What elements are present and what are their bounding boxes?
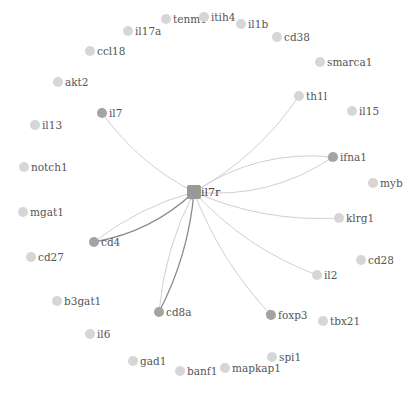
node-cd38[interactable]: cd38 <box>272 31 310 43</box>
node-label: il2 <box>324 269 337 281</box>
node-tbx21[interactable]: tbx21 <box>318 315 360 327</box>
node-il15[interactable]: il15 <box>347 105 379 117</box>
node-label: il17a <box>135 25 161 37</box>
node-notch1[interactable]: notch1 <box>19 161 68 173</box>
node-cd8a[interactable]: cd8a <box>154 306 192 318</box>
node-il6[interactable]: il6 <box>85 328 111 340</box>
node-label: gad1 <box>140 355 166 367</box>
node-label: akt2 <box>65 76 89 88</box>
edge-th1l-il7r <box>194 96 299 192</box>
node-marker[interactable] <box>199 12 209 22</box>
node-label: spi1 <box>279 351 301 363</box>
node-myb[interactable]: myb <box>368 177 403 189</box>
node-gad1[interactable]: gad1 <box>128 355 166 367</box>
edge-cd4-il7r <box>94 192 194 242</box>
node-marker[interactable] <box>175 366 185 376</box>
node-foxp3[interactable]: foxp3 <box>266 309 308 321</box>
node-label: tbx21 <box>330 315 360 327</box>
node-marker[interactable] <box>154 307 164 317</box>
hub-node-il7r[interactable]: il7r <box>187 185 221 199</box>
node-label: th1l <box>306 90 328 102</box>
node-marker[interactable] <box>312 270 322 280</box>
edge-il7r-cd8a <box>159 192 194 312</box>
node-il13[interactable]: il13 <box>30 119 62 131</box>
node-marker[interactable] <box>26 252 36 262</box>
node-marker[interactable] <box>267 352 277 362</box>
node-il7[interactable]: il7 <box>97 107 122 119</box>
network-graph[interactable]: tenm1itih4il1bcd38smarca1th1lil15ifna1my… <box>0 0 418 393</box>
node-label: il6 <box>97 328 111 340</box>
node-marker[interactable] <box>30 120 40 130</box>
node-label: myb <box>380 177 403 189</box>
node-il1b[interactable]: il1b <box>236 18 268 30</box>
node-marker[interactable] <box>318 316 328 326</box>
node-label: il7 <box>109 107 122 119</box>
node-label: il13 <box>42 119 62 131</box>
node-cd27[interactable]: cd27 <box>26 251 64 263</box>
node-b3gat1[interactable]: b3gat1 <box>52 295 101 307</box>
node-label: cd28 <box>368 254 394 266</box>
node-ifna1[interactable]: ifna1 <box>328 151 367 163</box>
node-label: cd4 <box>101 236 121 248</box>
node-marker[interactable] <box>315 57 325 67</box>
node-klrg1[interactable]: klrg1 <box>334 212 374 224</box>
node-smarca1[interactable]: smarca1 <box>315 56 372 68</box>
node-marker[interactable] <box>128 356 138 366</box>
node-banf1[interactable]: banf1 <box>175 365 217 377</box>
node-marker[interactable] <box>272 32 282 42</box>
node-label: foxp3 <box>278 309 308 321</box>
edge-il7-il7r <box>102 113 194 192</box>
node-marker[interactable] <box>18 207 28 217</box>
node-il2[interactable]: il2 <box>312 269 337 281</box>
node-label: cd8a <box>166 306 192 318</box>
node-th1l[interactable]: th1l <box>294 90 328 102</box>
node-cd28[interactable]: cd28 <box>356 254 394 266</box>
node-marker[interactable] <box>294 91 304 101</box>
node-akt2[interactable]: akt2 <box>53 76 89 88</box>
node-label: il15 <box>359 105 379 117</box>
node-il17a[interactable]: il17a <box>123 25 161 37</box>
node-marker[interactable] <box>266 310 276 320</box>
edge-cd4-il7r <box>94 192 194 242</box>
node-mgat1[interactable]: mgat1 <box>18 206 64 218</box>
hub-node-label: il7r <box>201 186 221 199</box>
hub-node-marker[interactable] <box>187 185 201 199</box>
edges-layer <box>94 96 339 315</box>
node-marker[interactable] <box>368 178 378 188</box>
node-label: b3gat1 <box>64 295 101 307</box>
node-label: cd38 <box>284 31 310 43</box>
node-ccl18[interactable]: ccl18 <box>85 45 125 57</box>
edge-il7r-foxp3 <box>194 192 271 315</box>
node-mapkap1[interactable]: mapkap1 <box>220 362 281 374</box>
node-label: smarca1 <box>327 56 372 68</box>
node-marker[interactable] <box>53 77 63 87</box>
node-marker[interactable] <box>334 213 344 223</box>
node-marker[interactable] <box>19 162 29 172</box>
node-label: banf1 <box>187 365 217 377</box>
node-marker[interactable] <box>236 19 246 29</box>
node-label: itih4 <box>211 11 236 23</box>
node-marker[interactable] <box>52 296 62 306</box>
node-cd4[interactable]: cd4 <box>89 236 121 248</box>
node-marker[interactable] <box>85 329 95 339</box>
edge-cd8a-il7r <box>159 192 194 312</box>
node-label: mgat1 <box>30 206 64 218</box>
node-label: cd27 <box>38 251 64 263</box>
node-label: klrg1 <box>346 212 374 224</box>
node-marker[interactable] <box>356 255 366 265</box>
node-marker[interactable] <box>347 106 357 116</box>
node-label: il1b <box>248 18 268 30</box>
node-marker[interactable] <box>89 237 99 247</box>
node-marker[interactable] <box>97 108 107 118</box>
node-itih4[interactable]: itih4 <box>199 11 236 23</box>
node-label: mapkap1 <box>232 362 281 374</box>
node-label: notch1 <box>31 161 68 173</box>
node-label: ifna1 <box>340 151 367 163</box>
node-marker[interactable] <box>123 26 133 36</box>
node-marker[interactable] <box>220 363 230 373</box>
node-marker[interactable] <box>328 152 338 162</box>
node-marker[interactable] <box>161 14 171 24</box>
node-marker[interactable] <box>85 46 95 56</box>
node-label: ccl18 <box>97 45 125 57</box>
